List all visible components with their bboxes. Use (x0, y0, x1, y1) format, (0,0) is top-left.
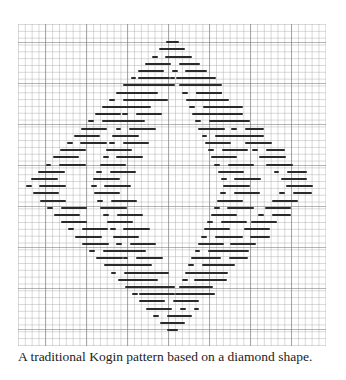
stitch (221, 221, 247, 223)
stitch (217, 200, 243, 202)
stitch (138, 77, 164, 79)
stitch (47, 207, 53, 209)
stitch (60, 149, 86, 151)
stitch (61, 221, 87, 223)
stitch (89, 250, 95, 252)
stitch (222, 149, 248, 151)
stitch (67, 142, 73, 144)
stitch (122, 113, 128, 115)
stitch (132, 279, 158, 281)
stitch (196, 92, 222, 94)
stitch (95, 113, 121, 115)
stitch (138, 70, 164, 72)
stitch (81, 128, 107, 130)
stitch (274, 171, 280, 173)
stitch (100, 207, 126, 209)
stitch (82, 243, 108, 245)
stitch (229, 257, 248, 259)
stitch (119, 250, 145, 252)
stitch (106, 149, 132, 151)
stitch (149, 286, 175, 288)
stitch (218, 171, 244, 173)
stitch (198, 243, 224, 245)
stitch (198, 128, 224, 130)
stitch (166, 41, 179, 43)
stitch (180, 308, 186, 310)
stitch (176, 77, 182, 79)
stitch (230, 243, 256, 245)
stitch (117, 214, 143, 216)
stitch (75, 236, 101, 238)
stitch (194, 308, 199, 310)
stitch (185, 70, 207, 72)
stitch (215, 236, 241, 238)
stitch (96, 257, 122, 259)
stitch (227, 207, 253, 209)
stitch (38, 171, 64, 173)
stitch (186, 99, 212, 101)
stitch (107, 221, 133, 223)
stitch (179, 63, 200, 65)
stitch (203, 106, 229, 108)
stitch (252, 149, 258, 151)
stitch (211, 214, 237, 216)
stitch (93, 178, 119, 180)
stitch (251, 221, 277, 223)
stitch (130, 243, 156, 245)
stitch (228, 164, 254, 166)
stitch (281, 178, 307, 180)
stitch (135, 286, 141, 288)
stitch (103, 214, 109, 216)
stitch (223, 185, 249, 187)
stitch (272, 214, 291, 216)
stitch (214, 164, 220, 166)
stitch (160, 322, 185, 324)
stitch (54, 214, 80, 216)
stitch (189, 293, 215, 295)
stitch (136, 257, 162, 259)
stitch (238, 135, 264, 137)
stitch (104, 185, 130, 187)
kogin-pattern-figure (18, 24, 326, 346)
stitch (287, 171, 306, 173)
stitch (265, 207, 291, 209)
stitch (192, 113, 218, 115)
stitch (61, 207, 87, 209)
stitch (96, 171, 102, 173)
stitch (111, 200, 137, 202)
stitch (46, 164, 52, 166)
stitch (182, 279, 188, 281)
stitch (245, 142, 271, 144)
stitch (266, 164, 292, 166)
stitch (139, 293, 165, 295)
stitch (112, 135, 138, 137)
stitch (190, 77, 216, 79)
figure-caption: A traditional Kogin pattern based on a d… (18, 349, 312, 365)
stitch (142, 99, 168, 101)
stitch (143, 272, 169, 274)
stitch (116, 243, 122, 245)
stitch (145, 63, 171, 65)
stitch (111, 272, 117, 274)
stitch (136, 113, 162, 115)
stitch (217, 113, 243, 115)
stitch (129, 128, 155, 130)
stitch (125, 106, 151, 108)
stitch (208, 149, 214, 151)
stitch (191, 257, 217, 259)
stitch (179, 286, 205, 288)
stitch (153, 315, 159, 317)
stitch (116, 128, 122, 130)
stitch (109, 142, 115, 144)
stitch (31, 178, 57, 180)
stitch (250, 236, 269, 238)
stitch (175, 293, 181, 295)
stitch (167, 329, 177, 331)
stitch (215, 135, 241, 137)
stitch (214, 207, 220, 209)
stitch (80, 142, 106, 144)
stitch (40, 200, 66, 202)
stitch (100, 164, 126, 166)
stitch (258, 214, 264, 216)
stitch (172, 70, 178, 72)
